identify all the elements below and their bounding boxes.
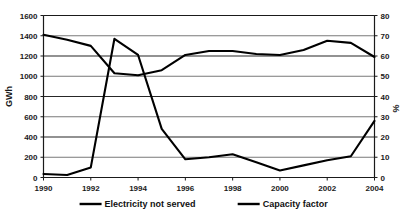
x-tick-label: 1990 bbox=[35, 184, 53, 193]
y2-tick-label: 60 bbox=[381, 52, 390, 61]
y-tick-label: 1200 bbox=[20, 52, 38, 61]
x-axis-ticks: 19901992199419961998200020022004 bbox=[35, 178, 384, 193]
series-line-electricity-not-served bbox=[44, 39, 375, 175]
y-tick-label: 1600 bbox=[20, 12, 38, 21]
legend-item-electricity-not-served: Electricity not served bbox=[80, 199, 196, 209]
y2-tick-label: 20 bbox=[381, 133, 390, 142]
y-tick-label: 800 bbox=[24, 93, 38, 102]
series-line-capacity-factor bbox=[44, 35, 375, 75]
y2-tick-label: 70 bbox=[381, 32, 390, 41]
y-tick-label: 1400 bbox=[20, 32, 38, 41]
y-axis-right-title: % bbox=[391, 104, 401, 112]
chart-legend: Electricity not servedCapacity factor bbox=[80, 199, 329, 209]
y2-tick-label: 10 bbox=[381, 153, 390, 162]
line-chart: 02004006008001000120014001600 0102030405… bbox=[0, 0, 406, 218]
y-tick-label: 0 bbox=[33, 174, 38, 183]
x-tick-label: 1992 bbox=[82, 184, 100, 193]
y-tick-label: 400 bbox=[24, 133, 38, 142]
y-tick-label: 600 bbox=[24, 113, 38, 122]
y2-tick-label: 40 bbox=[381, 93, 390, 102]
legend-label: Capacity factor bbox=[263, 199, 329, 209]
x-tick-label: 1996 bbox=[176, 184, 194, 193]
x-tick-label: 1994 bbox=[129, 184, 147, 193]
y2-tick-label: 0 bbox=[381, 174, 386, 183]
y2-tick-label: 80 bbox=[381, 12, 390, 21]
y-axis-right-ticks: 01020304050607080 bbox=[375, 12, 390, 183]
x-tick-label: 1998 bbox=[224, 184, 242, 193]
legend-label: Electricity not served bbox=[105, 199, 196, 209]
y-tick-label: 1000 bbox=[20, 72, 38, 81]
y2-tick-label: 30 bbox=[381, 113, 390, 122]
x-tick-label: 2004 bbox=[366, 184, 384, 193]
y-axis-left-title: GWh bbox=[4, 86, 14, 107]
y2-tick-label: 50 bbox=[381, 72, 390, 81]
chart-container: 02004006008001000120014001600 0102030405… bbox=[0, 0, 406, 218]
x-tick-label: 2000 bbox=[271, 184, 289, 193]
y-tick-label: 200 bbox=[24, 153, 38, 162]
x-tick-label: 2002 bbox=[318, 184, 336, 193]
legend-item-capacity-factor: Capacity factor bbox=[238, 199, 329, 209]
axis-titles: GWh% bbox=[4, 86, 401, 113]
y-axis-left-ticks: 02004006008001000120014001600 bbox=[20, 12, 44, 183]
